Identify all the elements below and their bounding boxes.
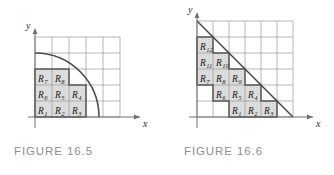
x-axis-label: x bbox=[315, 118, 321, 129]
x-axis-arrowhead bbox=[134, 115, 140, 120]
figure-panel-16-6: x y R1R2R3R4R5R6R7R8R9R10R11R12 FIGURE 1… bbox=[167, 0, 334, 175]
figure-16-6-graphic: x y R1R2R3R4R5R6R7R8R9R10R11R12 bbox=[167, 0, 334, 145]
y-axis-label: y bbox=[187, 4, 193, 15]
figure-16-5-graphic: x y R1R2R3R4R5R6R7R8 bbox=[0, 0, 167, 145]
x-axis-arrowhead bbox=[307, 115, 313, 120]
y-axis-arrowhead bbox=[33, 28, 38, 34]
figure-panel-16-5: x y R1R2R3R4R5R6R7R8 FIGURE 16.5 bbox=[0, 0, 167, 175]
region-subscript: 12 bbox=[206, 46, 213, 53]
y-axis-label: y bbox=[25, 20, 31, 31]
figure-caption-16-6: FIGURE 16.6 bbox=[184, 145, 263, 157]
region-subscript: 11 bbox=[206, 62, 212, 69]
region-subscript: 1 bbox=[44, 110, 47, 117]
figure-caption-16-5: FIGURE 16.5 bbox=[14, 145, 93, 157]
y-axis-arrowhead bbox=[195, 12, 200, 18]
x-axis-label: x bbox=[142, 118, 148, 129]
region-subscript: 1 bbox=[238, 110, 241, 117]
figure-pair-container: x y R1R2R3R4R5R6R7R8 FIGURE 16.5 bbox=[0, 0, 334, 175]
region-labels-16-5: R1R2R3R4R5R6R7R8 bbox=[37, 74, 82, 117]
region-subscript: 3 bbox=[269, 110, 274, 117]
region-subscript: 3 bbox=[77, 110, 82, 117]
region-subscript: 10 bbox=[222, 62, 229, 69]
